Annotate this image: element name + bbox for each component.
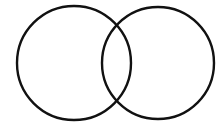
left-set-circle xyxy=(17,6,131,120)
right-set-circle xyxy=(102,7,214,119)
venn-diagram xyxy=(0,0,224,127)
